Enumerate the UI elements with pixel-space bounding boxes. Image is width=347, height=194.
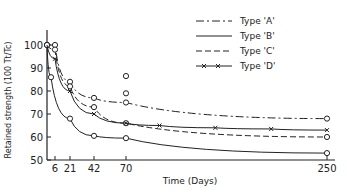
x-tick-label: 70 bbox=[120, 163, 133, 174]
circle-marker bbox=[91, 105, 96, 110]
legend-label: Type 'B' bbox=[239, 31, 275, 41]
y-axis-label: Retained strength (100 Tt/Tc) bbox=[4, 42, 13, 159]
x-tick-label: 42 bbox=[88, 163, 101, 174]
y-tick-label: 50 bbox=[30, 155, 43, 166]
legend: Type 'A'Type 'B'Type 'C'Type 'D' bbox=[196, 16, 275, 71]
circle-marker bbox=[91, 133, 96, 138]
x-tick-label: 250 bbox=[317, 163, 336, 174]
chart: 50607080901006214270250Time (Days)Retain… bbox=[0, 0, 347, 194]
y-tick-label: 80 bbox=[30, 86, 43, 97]
y-tick-label: 70 bbox=[30, 109, 43, 120]
x-axis-label: Time (Days) bbox=[162, 176, 217, 186]
legend-label: Type 'D' bbox=[239, 61, 275, 71]
series-c bbox=[44, 42, 329, 139]
circle-marker bbox=[123, 136, 128, 141]
legend-label: Type 'C' bbox=[239, 46, 275, 56]
x-tick-label: 6 bbox=[52, 163, 58, 174]
data-point bbox=[123, 91, 128, 96]
circle-marker bbox=[91, 95, 96, 100]
series-d bbox=[47, 45, 329, 132]
circle-marker bbox=[67, 116, 72, 121]
circle-marker bbox=[48, 75, 53, 80]
circle-marker bbox=[324, 134, 329, 139]
legend-label: Type 'A' bbox=[239, 16, 275, 26]
x-tick-label: 21 bbox=[64, 163, 77, 174]
y-tick-label: 60 bbox=[30, 132, 43, 143]
circle-marker bbox=[52, 47, 57, 52]
data-point bbox=[123, 73, 128, 78]
series-b bbox=[44, 42, 329, 155]
y-tick-label: 90 bbox=[30, 63, 43, 74]
circle-marker bbox=[324, 116, 329, 121]
circle-marker bbox=[123, 100, 128, 105]
y-tick-label: 100 bbox=[24, 40, 43, 51]
circle-marker bbox=[324, 151, 329, 156]
series-a bbox=[44, 42, 329, 121]
circle-marker bbox=[67, 84, 72, 89]
